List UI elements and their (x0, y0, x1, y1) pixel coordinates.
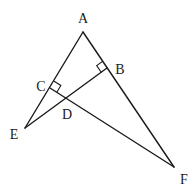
label-b: B (115, 62, 124, 77)
segment-ae (25, 32, 83, 128)
geometry-diagram: A B C D E F (0, 0, 192, 190)
label-a: A (78, 11, 89, 26)
segment-cf (50, 88, 174, 167)
label-d: D (62, 107, 72, 122)
label-c: C (36, 79, 45, 94)
label-f: F (180, 172, 188, 187)
label-e: E (10, 127, 19, 142)
segment-af (83, 32, 174, 167)
right-angle-mark-b (97, 61, 103, 72)
